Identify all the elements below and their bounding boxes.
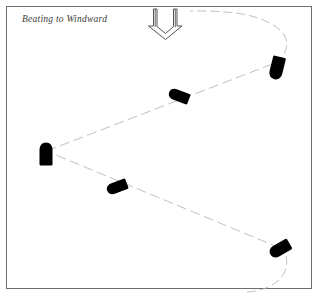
figure-border: [7, 7, 312, 289]
diagram-canvas: Beating to Windward: [0, 0, 322, 300]
boat-at-left-tack: [40, 143, 53, 166]
beating-to-windward-figure: Beating to Windward: [0, 0, 322, 300]
figure-caption: Beating to Windward: [22, 14, 107, 24]
boat-hull: [40, 143, 53, 166]
